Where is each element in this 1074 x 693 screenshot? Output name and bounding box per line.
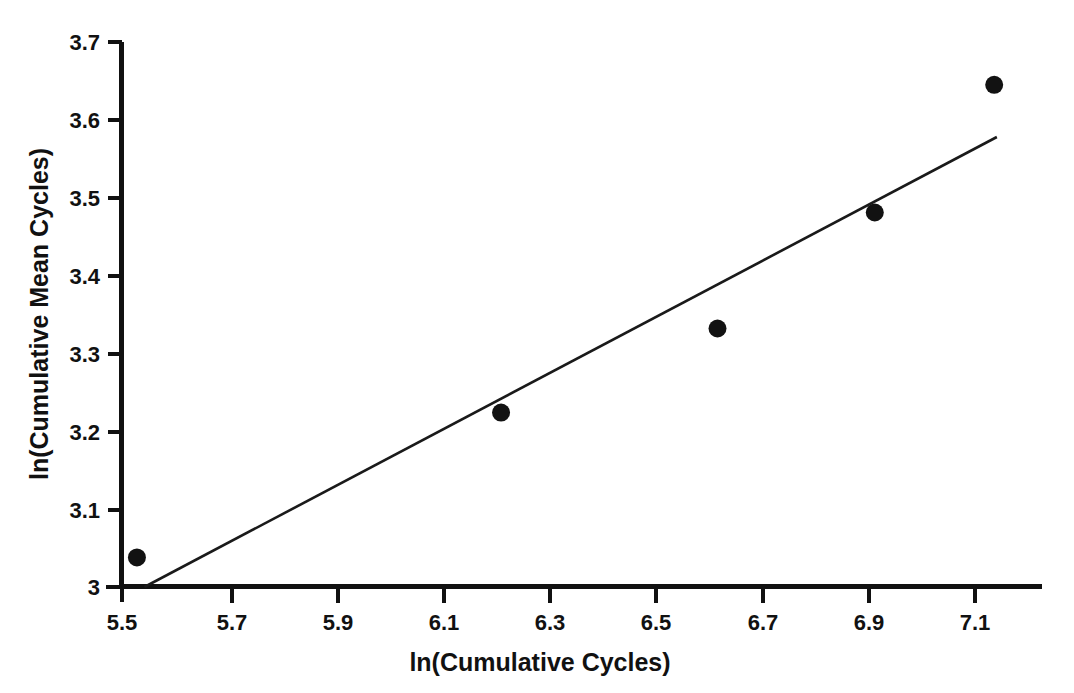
y-tick-label: 3.4 — [69, 264, 100, 289]
x-tick-label: 6.9 — [854, 610, 885, 635]
y-tick-label: 3.7 — [69, 30, 100, 55]
chart-figure: 3.7 3.6 3.5 3.4 3.3 3.2 3.1 3 5.5 5.7 5.… — [0, 0, 1074, 693]
y-axis-tick-labels: 3.7 3.6 3.5 3.4 3.3 3.2 3.1 3 — [69, 30, 100, 600]
x-tick-label: 5.7 — [217, 610, 248, 635]
x-tick-label: 6.1 — [429, 610, 460, 635]
x-tick-label: 5.9 — [323, 610, 354, 635]
y-tick-label: 3.3 — [69, 342, 100, 367]
y-tick-label: 3.5 — [69, 186, 100, 211]
y-tick-label: 3 — [88, 575, 100, 600]
x-tick-label: 6.3 — [535, 610, 566, 635]
data-point — [492, 404, 510, 422]
trend-line — [144, 137, 996, 587]
y-axis-title: ln(Cumulative Mean Cycles) — [25, 148, 53, 480]
y-tick-label: 3.2 — [69, 420, 100, 445]
data-point — [985, 76, 1003, 94]
x-axis-title: ln(Cumulative Cycles) — [409, 648, 670, 676]
data-point-group — [128, 76, 1003, 567]
x-tick-label: 5.5 — [107, 610, 138, 635]
scatter-plot-svg: 3.7 3.6 3.5 3.4 3.3 3.2 3.1 3 5.5 5.7 5.… — [0, 0, 1074, 693]
x-axis-tick-labels: 5.5 5.7 5.9 6.1 6.3 6.5 6.7 6.9 7.1 — [107, 610, 991, 635]
x-axis-ticks — [122, 587, 975, 603]
data-point — [709, 320, 727, 338]
data-point — [866, 204, 884, 222]
y-tick-label: 3.1 — [69, 498, 100, 523]
x-tick-label: 6.7 — [748, 610, 779, 635]
x-tick-label: 6.5 — [641, 610, 672, 635]
data-point — [128, 548, 146, 566]
x-tick-label: 7.1 — [960, 610, 991, 635]
y-tick-label: 3.6 — [69, 108, 100, 133]
